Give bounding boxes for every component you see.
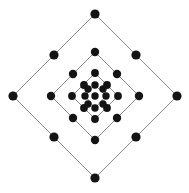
lattice-canvas [0,0,189,193]
lattice-dot-ring2-bottom-right [113,114,121,122]
lattice-dot-ring4-bottom-right [99,100,106,107]
lattice-dot-ring4-bottom [91,104,98,111]
lattice-dot-center [91,92,98,99]
lattice-dot-ring2-top-right [113,70,121,78]
lattice-dot-ring4-left [81,92,88,99]
lattice-dot-ring3-left [68,92,76,100]
lattice-dot-ring2-left [47,92,55,100]
lattice-dot-ring2-right [135,92,143,100]
lattice-dot-ring1-bottom [90,173,99,182]
lattice-dot-ring2-top-left [69,70,77,78]
lattice-dot-ring3-bottom [91,115,99,123]
lattice-dot-ring1-bottom-left [49,132,58,141]
lattice-dot-ring4-top-left [84,85,91,92]
lattice-dot-ring3-right [114,92,122,100]
lattice-dot-ring3-top [91,69,99,77]
lattice-dot-ring4-top-right [99,85,106,92]
lattice-dot-ring1-right [172,91,181,100]
lattice-dot-ring4-right [102,92,109,99]
diamond-lattice-figure [0,0,189,193]
lattice-dot-ring2-bottom [91,136,99,144]
lattice-dot-ring2-top [91,48,99,56]
lattice-dot-ring1-top [90,9,99,18]
lattice-dot-ring1-bottom-right [131,132,140,141]
lattice-dot-ring4-bottom-left [84,100,91,107]
lattice-dot-ring4-top [91,81,98,88]
lattice-dot-ring1-top-right [131,50,140,59]
lattice-dot-ring1-left [8,91,17,100]
lattice-dot-ring1-top-left [49,50,58,59]
lattice-dot-ring2-bottom-left [69,114,77,122]
